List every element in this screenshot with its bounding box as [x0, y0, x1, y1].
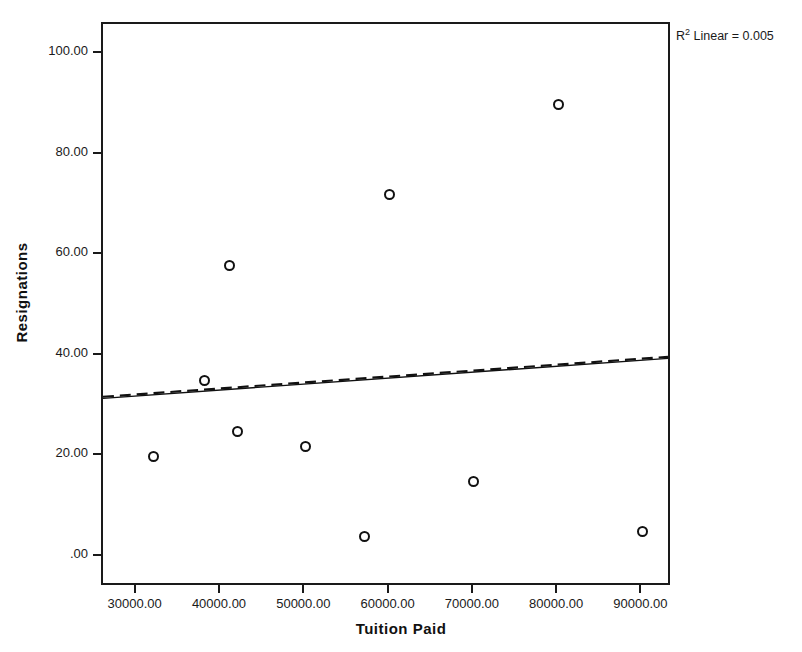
x-axis-tick-label: 80000.00: [511, 596, 601, 611]
y-axis-tick-label: 20.00: [55, 445, 88, 460]
x-axis-tick-label: 90000.00: [595, 596, 685, 611]
y-axis-tick-mark: [93, 554, 101, 556]
data-point-marker: [359, 531, 370, 542]
y-axis-tick-label: 80.00: [55, 144, 88, 159]
y-axis-tick-mark: [93, 353, 101, 355]
y-axis-tick-mark: [93, 152, 101, 154]
r-squared-value-text: Linear = 0.005: [690, 29, 774, 43]
y-axis-tick-label: 100.00: [48, 43, 88, 58]
r-squared-annotation: R2 Linear = 0.005: [676, 27, 774, 43]
y-axis-tick-mark: [93, 51, 101, 53]
x-axis-tick-mark: [387, 585, 389, 593]
y-axis-tick-label: .00: [70, 546, 88, 561]
data-point-marker: [232, 426, 243, 437]
scatter-plot-figure: Resignations .0020.0040.0060.0080.00100.…: [0, 0, 802, 652]
data-point-marker: [148, 451, 159, 462]
data-point-marker: [224, 260, 235, 271]
plot-frame: [101, 22, 670, 585]
regression-line-dashed: [103, 357, 668, 397]
plot-drawing-area: [103, 24, 668, 583]
y-axis-tick-mark: [93, 252, 101, 254]
x-axis-title: Tuition Paid: [0, 620, 802, 637]
x-axis-tick-label: 60000.00: [343, 596, 433, 611]
y-axis-title: Resignations: [13, 242, 30, 342]
data-point-marker: [553, 99, 564, 110]
x-axis-tick-mark: [218, 585, 220, 593]
y-axis-title-container: Resignations: [8, 0, 34, 585]
regression-line-solid: [103, 358, 668, 398]
x-axis-tick-mark: [555, 585, 557, 593]
data-point-marker: [300, 441, 311, 452]
y-axis-tick-mark: [93, 453, 101, 455]
x-axis-tick-mark: [471, 585, 473, 593]
x-axis-tick-mark: [302, 585, 304, 593]
y-axis-tick-label: 40.00: [55, 345, 88, 360]
x-axis-tick-label: 30000.00: [90, 596, 180, 611]
r-squared-letter: R: [676, 29, 685, 43]
data-point-marker: [199, 375, 210, 386]
x-axis-tick-label: 50000.00: [258, 596, 348, 611]
x-axis-tick-mark: [639, 585, 641, 593]
y-axis-tick-label: 60.00: [55, 244, 88, 259]
x-axis-tick-mark: [134, 585, 136, 593]
x-axis-tick-label: 70000.00: [427, 596, 517, 611]
x-axis-tick-label: 40000.00: [174, 596, 264, 611]
